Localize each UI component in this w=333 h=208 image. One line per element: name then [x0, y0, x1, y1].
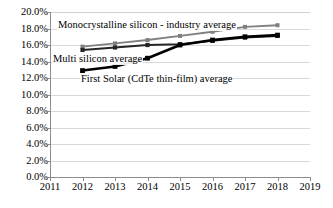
annotation-monocrystalline-silicon: Monocrystalline silicon - industry avera… [57, 19, 237, 31]
annotation-multi-silicon: Multi silicon average [52, 53, 143, 65]
y-tick-mark [46, 111, 50, 112]
x-tick-mark [148, 177, 149, 181]
x-tick-label: 2018 [267, 181, 288, 193]
data-point-marker [210, 38, 215, 43]
data-point-marker [275, 33, 280, 38]
x-tick-label: 2012 [72, 181, 93, 193]
x-tick-mark [245, 177, 246, 181]
solar-module-efficiency-line-chart: 0.0%2.0%4.0%6.0%8.0%10.0%12.0%14.0%16.0%… [0, 0, 333, 208]
x-tick-label: 2019 [300, 181, 321, 193]
data-point-marker [113, 45, 117, 49]
x-tick-label: 2011 [40, 181, 61, 193]
x-tick-mark [213, 177, 214, 181]
x-tick-mark [115, 177, 116, 181]
data-point-marker [276, 23, 280, 27]
x-tick-label: 2015 [170, 181, 191, 193]
y-tick-mark [46, 62, 50, 63]
x-tick-mark [83, 177, 84, 181]
x-axis-tick-labels: 201120122013201420152016201720182019 [0, 181, 333, 201]
data-point-marker [243, 25, 247, 29]
x-tick-label: 2014 [137, 181, 158, 193]
x-tick-label: 2017 [235, 181, 256, 193]
y-tick-mark [46, 45, 50, 46]
y-tick-mark [46, 12, 50, 13]
y-tick-mark [46, 128, 50, 129]
y-tick-mark [46, 29, 50, 30]
y-tick-mark [46, 144, 50, 145]
data-point-marker [178, 34, 182, 38]
data-point-marker [145, 56, 150, 61]
data-point-marker [243, 34, 248, 39]
x-tick-mark [50, 177, 51, 181]
y-tick-mark [46, 95, 50, 96]
x-tick-mark [278, 177, 279, 181]
y-tick-mark [46, 161, 50, 162]
data-point-marker [113, 41, 117, 45]
data-point-marker [146, 38, 150, 42]
y-tick-mark [46, 78, 50, 79]
x-tick-mark [310, 177, 311, 181]
data-point-marker [80, 48, 84, 52]
x-tick-mark [180, 177, 181, 181]
annotation-first-solar-cdte: First Solar (CdTe thin-film) average [80, 73, 233, 85]
x-tick-label: 2016 [202, 181, 223, 193]
x-tick-label: 2013 [105, 181, 126, 193]
data-point-marker [145, 43, 149, 47]
data-point-marker [178, 43, 183, 48]
